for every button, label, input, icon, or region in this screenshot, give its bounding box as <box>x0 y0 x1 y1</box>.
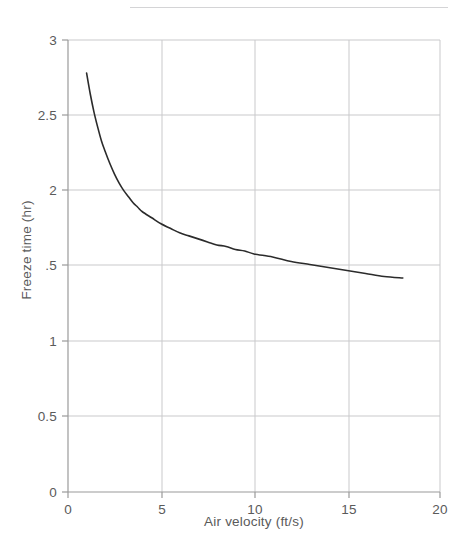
y-tick-label: .5 <box>45 258 57 273</box>
data-series-line <box>87 73 403 278</box>
axis-ticks <box>62 40 440 498</box>
plot-area <box>0 0 470 554</box>
axis-lines <box>68 40 440 492</box>
y-tick-label: 1 <box>49 334 57 349</box>
x-tick-label: 15 <box>341 502 356 517</box>
x-tick-label: 5 <box>158 502 166 517</box>
chart-figure: 3 2.5 2 .5 1 0.5 0 0 5 10 15 20 Air velo… <box>0 0 470 554</box>
y-axis-title: Freeze time (hr) <box>19 200 34 299</box>
gridlines-vertical <box>162 40 440 492</box>
x-axis-title: Air velocity (ft/s) <box>204 514 304 529</box>
y-tick-label: 3 <box>49 33 57 48</box>
gridlines-horizontal <box>68 40 440 416</box>
x-tick-label: 20 <box>432 502 447 517</box>
y-tick-label: 0.5 <box>38 409 57 424</box>
y-tick-label: 2.5 <box>38 108 57 123</box>
x-tick-label: 0 <box>64 502 72 517</box>
y-tick-label: 2 <box>49 183 57 198</box>
y-tick-label: 0 <box>49 485 57 500</box>
